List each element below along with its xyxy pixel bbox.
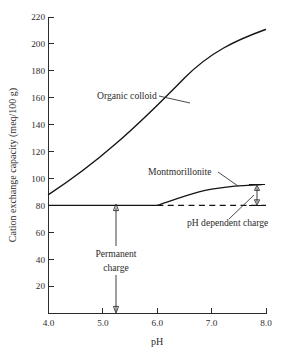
x-tick-label: 8.0 — [260, 318, 272, 328]
y-tick-label: 60 — [36, 228, 46, 238]
y-tick-label: 160 — [31, 93, 45, 103]
y-tick-label: 40 — [36, 255, 46, 265]
ph-dependent-charge-arrow — [254, 185, 259, 205]
annotation-group: Organic colloid Montmorillonite pH depen… — [88, 90, 268, 313]
y-tick-label: 20 — [36, 281, 46, 291]
chart-canvas: 220 200 180 160 140 120 100 80 60 40 20 — [0, 0, 284, 364]
y-axis-title: Cation exchange capacity (meq/100 g) — [7, 88, 19, 242]
x-tick-label: 6.0 — [152, 318, 164, 328]
permanent-charge-label: Permanent charge — [88, 246, 144, 275]
y-tick-label: 100 — [31, 174, 45, 184]
x-tick-label: 5.0 — [97, 318, 109, 328]
x-axis-title: pH — [151, 336, 163, 347]
montmorillonite-label: Montmorillonite — [148, 166, 211, 177]
y-tick-label: 120 — [31, 147, 45, 157]
y-tick-label: 80 — [36, 201, 46, 211]
data-group — [49, 30, 267, 206]
y-tick-label: 200 — [31, 39, 45, 49]
x-tick-label: 4.0 — [43, 318, 55, 328]
permanent-charge-label-line1: Permanent — [95, 248, 136, 259]
y-tick-label: 180 — [31, 66, 45, 76]
permanent-charge-label-line2: charge — [103, 262, 128, 273]
organic-colloid-label: Organic colloid — [97, 90, 157, 101]
y-tick-label: 140 — [31, 120, 45, 130]
x-tick-marks — [49, 308, 267, 314]
ph-dependent-charge-label: pH dependent charge — [187, 217, 268, 228]
cec-vs-ph-figure: 220 200 180 160 140 120 100 80 60 40 20 — [0, 0, 284, 364]
ph-dependent-charge-leader — [229, 195, 254, 219]
y-tick-marks — [49, 17, 55, 286]
x-tick-label: 7.0 — [206, 318, 218, 328]
montmorillonite-leader — [218, 172, 238, 186]
axis-group: 220 200 180 160 140 120 100 80 60 40 20 — [7, 12, 272, 347]
x-tick-labels: 4.0 5.0 6.0 7.0 8.0 — [43, 318, 272, 328]
y-tick-label: 220 — [31, 12, 45, 22]
y-tick-labels: 220 200 180 160 140 120 100 80 60 40 20 — [31, 12, 45, 291]
